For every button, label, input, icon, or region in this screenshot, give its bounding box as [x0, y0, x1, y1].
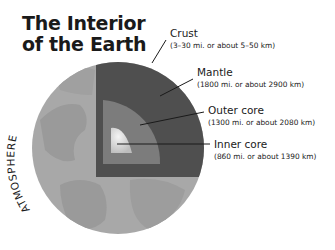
outer-core-detail: (1300 mi. or about 2080 km) — [208, 118, 315, 127]
crust-label: Crust — [170, 27, 198, 39]
mantle-detail: (1800 mi. or about 2900 km) — [197, 80, 304, 89]
crust-detail: (3–30 mi. or about 5–50 km) — [170, 41, 275, 50]
inner-core-label: Inner core — [214, 138, 267, 150]
crust-leader-line — [152, 40, 166, 63]
inner-core-detail: (860 mi. or about 1390 km) — [214, 152, 316, 161]
outer-core-label: Outer core — [208, 104, 264, 116]
atmosphere-label: ATMOSPHERE — [4, 134, 31, 216]
mantle-label: Mantle — [197, 66, 233, 78]
globe — [32, 58, 206, 234]
